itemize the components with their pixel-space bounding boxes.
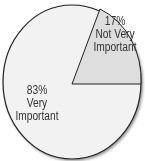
- label-line: Important: [14, 110, 60, 123]
- label-very-important: 83% Very Important: [14, 84, 60, 123]
- label-not-very-important: 17% Not Very Important: [90, 15, 139, 54]
- label-line: Important: [90, 41, 139, 54]
